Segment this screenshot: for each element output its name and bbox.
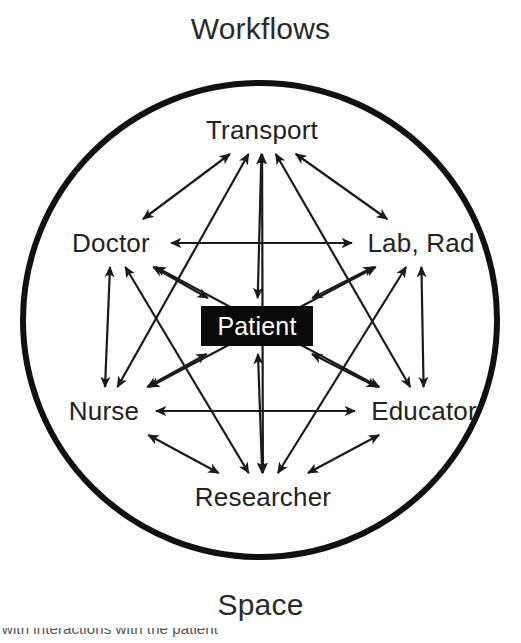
edge-educator-researcher bbox=[308, 435, 379, 473]
node-nurse: Nurse bbox=[69, 396, 139, 427]
edge-doctor-patient bbox=[153, 267, 208, 298]
clipped-footer-caption: with interactions with the patient bbox=[0, 628, 521, 643]
edge-educator-patient bbox=[312, 354, 377, 387]
diagram-bottom-caption: Space bbox=[0, 588, 521, 622]
edge-doctor-nurse bbox=[105, 267, 110, 387]
edge-researcher-patient bbox=[258, 354, 262, 473]
edge-nurse-patient bbox=[147, 354, 206, 387]
edge-transport-lab-rad bbox=[296, 154, 387, 219]
workflow-space-diagram: Workflows Transport Doctor Lab, Rad Nurs… bbox=[0, 0, 521, 643]
edge-transport-patient bbox=[258, 154, 262, 298]
node-patient: Patient bbox=[201, 306, 313, 346]
node-transport: Transport bbox=[206, 115, 318, 146]
edge-nurse-researcher bbox=[148, 435, 218, 473]
node-patient-label: Patient bbox=[217, 314, 296, 339]
node-educator: Educator bbox=[371, 396, 477, 427]
node-doctor: Doctor bbox=[72, 228, 150, 259]
node-researcher: Researcher bbox=[195, 482, 331, 513]
node-lab-rad: Lab, Rad bbox=[367, 228, 474, 259]
edge-transport-educator bbox=[276, 154, 410, 387]
edge-doctor-researcher bbox=[125, 267, 248, 473]
edge-lab-rad-educator bbox=[421, 267, 423, 387]
